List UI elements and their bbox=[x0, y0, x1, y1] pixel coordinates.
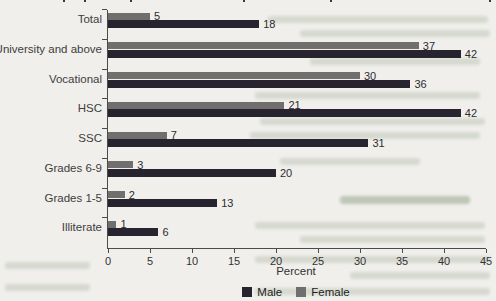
cropped-title-remnant bbox=[243, 0, 245, 2]
plot-area: Total518University and above3742Vocation… bbox=[107, 10, 486, 249]
female-bar bbox=[108, 161, 133, 168]
plot-rows: Total518University and above3742Vocation… bbox=[108, 10, 486, 248]
bleedthrough-artifact bbox=[5, 284, 90, 291]
male-bar bbox=[108, 228, 158, 236]
x-axis-tick bbox=[150, 249, 151, 253]
x-axis-tick bbox=[318, 249, 319, 253]
y-axis-tick bbox=[102, 39, 107, 40]
y-axis-tick bbox=[102, 128, 107, 129]
x-axis-tick bbox=[108, 249, 109, 253]
category-label: SSC bbox=[78, 131, 102, 146]
value-label: 36 bbox=[414, 80, 426, 88]
male-bar bbox=[108, 50, 461, 58]
value-label: 5 bbox=[154, 12, 160, 20]
value-label: 31 bbox=[372, 139, 384, 147]
y-axis-tick bbox=[102, 188, 107, 189]
value-label: 3 bbox=[137, 161, 143, 169]
bleedthrough-artifact bbox=[5, 262, 90, 269]
bar-group: Illiterate16 bbox=[108, 218, 486, 248]
category-label: Illiterate bbox=[62, 220, 102, 235]
bar-group: University and above3742 bbox=[108, 40, 486, 70]
value-label: 42 bbox=[465, 50, 477, 58]
bleedthrough-artifact bbox=[255, 256, 490, 263]
legend-item-male: Male bbox=[242, 286, 282, 298]
bar-group: SSC731 bbox=[108, 129, 486, 159]
y-axis-tick bbox=[102, 217, 107, 218]
male-bar bbox=[108, 139, 368, 147]
y-axis-tick bbox=[102, 98, 107, 99]
category-label: Grades 6-9 bbox=[44, 161, 102, 176]
value-label: 30 bbox=[364, 72, 376, 80]
female-bar bbox=[108, 221, 116, 228]
category-label: HSC bbox=[78, 101, 102, 116]
legend-label: Female bbox=[311, 286, 349, 298]
x-axis-tick bbox=[234, 249, 235, 253]
female-bar bbox=[108, 132, 167, 139]
male-bar bbox=[108, 199, 217, 207]
x-axis-tick bbox=[192, 249, 193, 253]
value-label: 2 bbox=[129, 191, 135, 199]
category-label: Vocational bbox=[49, 72, 102, 87]
bar-group: Grades 6-9320 bbox=[108, 159, 486, 189]
category-label: University and above bbox=[0, 42, 102, 57]
value-label: 7 bbox=[171, 131, 177, 139]
value-label: 6 bbox=[162, 228, 168, 236]
value-label: 42 bbox=[465, 109, 477, 117]
value-label: 20 bbox=[280, 169, 292, 177]
male-bar bbox=[108, 20, 259, 28]
cropped-title-remnant bbox=[130, 0, 132, 2]
female-bar bbox=[108, 72, 360, 79]
cropped-title-remnant bbox=[63, 0, 65, 2]
cropped-title-remnant bbox=[330, 0, 332, 2]
male-bar bbox=[108, 109, 461, 117]
x-axis-tick bbox=[276, 249, 277, 253]
female-bar bbox=[108, 102, 284, 109]
x-axis-tick bbox=[486, 249, 487, 253]
bar-group: Vocational3036 bbox=[108, 70, 486, 100]
x-axis-label: Percent bbox=[107, 265, 485, 277]
value-label: 13 bbox=[221, 199, 233, 207]
y-axis-tick bbox=[102, 69, 107, 70]
female-bar bbox=[108, 42, 419, 49]
bar-group: Grades 1-5213 bbox=[108, 189, 486, 219]
value-label: 37 bbox=[423, 42, 435, 50]
cropped-title-remnant bbox=[84, 0, 86, 2]
bar-group: Total518 bbox=[108, 10, 486, 40]
value-label: 18 bbox=[263, 20, 275, 28]
female-bar bbox=[108, 191, 125, 198]
category-label: Grades 1-5 bbox=[44, 191, 102, 206]
male-bar bbox=[108, 80, 410, 88]
legend: MaleFemale bbox=[107, 286, 485, 298]
legend-swatch-icon bbox=[296, 287, 306, 297]
female-bar bbox=[108, 13, 150, 20]
x-axis-tick bbox=[402, 249, 403, 253]
value-label: 1 bbox=[120, 220, 126, 228]
cropped-title-remnant bbox=[489, 0, 491, 2]
scanned-chart-page: Total518University and above3742Vocation… bbox=[0, 0, 496, 301]
legend-label: Male bbox=[257, 286, 282, 298]
y-axis-tick bbox=[102, 9, 107, 10]
legend-swatch-icon bbox=[242, 287, 252, 297]
x-axis-tick bbox=[360, 249, 361, 253]
male-bar bbox=[108, 169, 276, 177]
category-label: Total bbox=[78, 12, 102, 27]
bar-group: HSC2142 bbox=[108, 99, 486, 129]
x-axis-tick bbox=[444, 249, 445, 253]
legend-item-female: Female bbox=[296, 286, 349, 298]
y-axis-tick bbox=[102, 158, 107, 159]
value-label: 21 bbox=[288, 101, 300, 109]
